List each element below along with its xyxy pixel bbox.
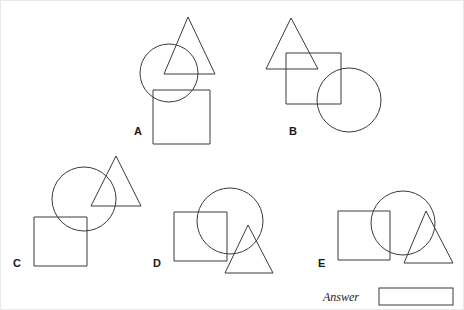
square-icon [338,211,390,260]
circle-icon [140,44,198,102]
square-icon [34,217,87,266]
option-label-b: B [289,125,297,137]
circle-icon [197,188,263,254]
option-label-a: A [134,125,142,137]
triangle-icon [266,18,318,69]
option-d-group[interactable]: D [153,188,273,273]
option-label-d: D [153,257,161,269]
answer-row: Answer [322,288,453,305]
shape-puzzle-figure: A B C D E [1,1,464,310]
triangle-icon [225,225,273,273]
puzzle-page: A B C D E [0,0,464,310]
option-a-group[interactable]: A [134,17,215,144]
option-label-e: E [318,257,325,269]
square-icon [153,90,210,144]
option-c-group[interactable]: C [13,156,141,269]
option-b-group[interactable]: B [266,18,381,137]
circle-icon [317,68,381,132]
triangle-icon [164,17,215,74]
answer-input-box[interactable] [379,288,453,305]
triangle-icon [404,211,453,263]
answer-label: Answer [322,290,359,304]
circle-icon [52,167,116,231]
option-e-group[interactable]: E [318,191,453,269]
circle-icon [371,191,435,255]
option-label-c: C [13,257,21,269]
